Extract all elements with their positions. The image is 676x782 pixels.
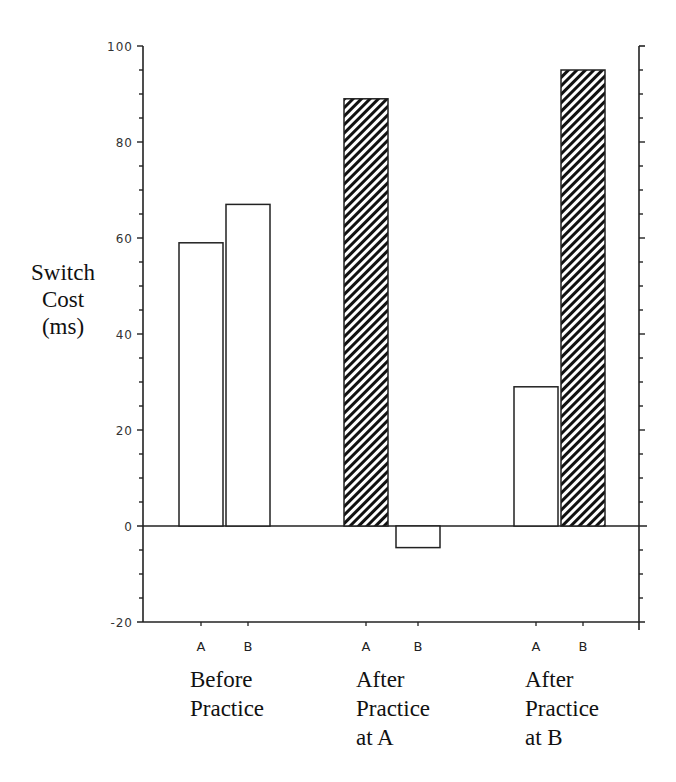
y-axis-title-line: Switch	[31, 260, 95, 285]
group-label-line: After	[356, 667, 405, 692]
y-tick-label: -20	[110, 616, 133, 630]
y-tick-label: 100	[107, 40, 133, 54]
y-axis-title-line: (ms)	[42, 314, 84, 339]
category-label: A	[362, 639, 371, 654]
bar-1-b	[226, 204, 270, 526]
bar-3-b	[561, 70, 605, 526]
group-label-line: Practice	[525, 696, 599, 721]
bar-3-a	[514, 387, 558, 526]
group-label-line: at B	[525, 725, 563, 750]
bar-2-b	[396, 526, 440, 548]
y-axis-label: SwitchCost(ms)	[31, 260, 95, 339]
group-label-line: Practice	[190, 696, 264, 721]
group-label-line: After	[525, 667, 574, 692]
group-label-line: Before	[190, 667, 253, 692]
bar-chart: SwitchCost(ms) -20020406080100 ABBeforeP…	[0, 0, 676, 782]
category-label: B	[414, 639, 423, 654]
y-tick-label: 40	[116, 328, 133, 342]
group-label-line: at A	[356, 725, 394, 750]
bars	[179, 70, 605, 548]
bar-2-a	[344, 99, 388, 526]
category-label: A	[532, 639, 541, 654]
category-label: A	[197, 639, 206, 654]
category-label: B	[579, 639, 588, 654]
category-label: B	[244, 639, 253, 654]
y-tick-label: 0	[124, 520, 133, 534]
y-axis-title-line: Cost	[42, 287, 85, 312]
y-tick-label: 60	[116, 232, 133, 246]
group-label-line: Practice	[356, 696, 430, 721]
y-tick-label: 20	[116, 424, 133, 438]
bar-1-a	[179, 243, 223, 526]
x-axis-labels: ABBeforePracticeABAfterPracticeat AABAft…	[190, 639, 599, 750]
y-tick-label: 80	[116, 136, 133, 150]
